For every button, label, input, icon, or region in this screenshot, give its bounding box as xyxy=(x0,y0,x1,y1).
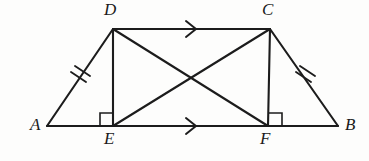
right-angle-f-marker xyxy=(269,113,282,126)
vertex-label-e: E xyxy=(104,130,114,147)
vertex-label-f: F xyxy=(260,130,270,147)
segment-cf xyxy=(268,29,270,126)
vertex-label-d: D xyxy=(104,1,116,18)
right-angle-e-marker xyxy=(100,113,113,126)
vertex-label-a: A xyxy=(30,116,40,133)
geometry-figure: A D C B E F xyxy=(0,0,369,161)
vertex-label-b: B xyxy=(345,116,355,133)
vertex-label-c: C xyxy=(262,1,273,18)
figure-canvas xyxy=(0,0,369,161)
